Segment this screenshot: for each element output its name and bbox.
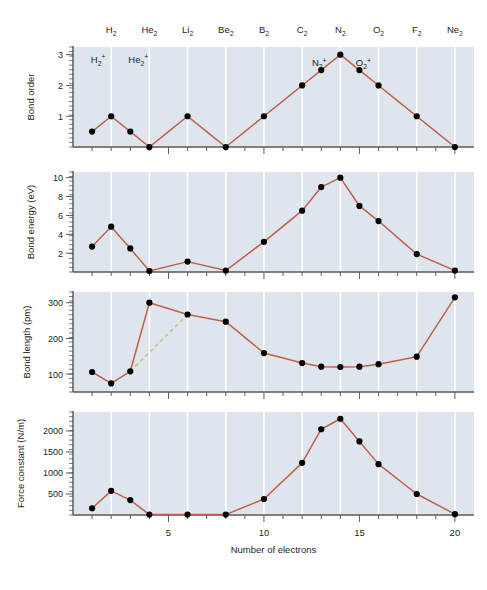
data-point-marker: [108, 113, 114, 119]
data-point-marker: [299, 82, 305, 88]
data-point-marker: [223, 511, 229, 517]
data-point-marker: [414, 354, 420, 360]
data-point-marker: [146, 511, 152, 517]
data-point-marker: [337, 52, 343, 58]
data-point-marker: [261, 113, 267, 119]
data-point-marker: [414, 491, 420, 497]
data-point-marker: [89, 129, 95, 135]
data-point-marker: [452, 144, 458, 150]
data-point-marker: [261, 496, 267, 502]
y-tick-label: 2000: [43, 426, 63, 436]
y-tick-label: 1000: [43, 468, 63, 478]
multi-panel-chart: H2He2Li2Be2B2C2N2O2F2Ne2123Bond order246…: [0, 0, 487, 590]
y-tick-label: 300: [48, 298, 63, 308]
panel-bond-energy: 246810Bond energy (eV): [25, 171, 474, 279]
molecule-label-f2: F2: [412, 24, 422, 37]
molecule-label-ne2: Ne2: [447, 24, 463, 37]
data-point-marker: [452, 511, 458, 517]
x-axis-title: Number of electrons: [231, 544, 317, 555]
x-tick-label: 5: [166, 527, 171, 538]
data-point-marker: [318, 184, 324, 190]
data-point-marker: [375, 361, 381, 367]
data-point-marker: [414, 113, 420, 119]
molecule-label-c2: C2: [297, 24, 308, 37]
data-point-marker: [89, 369, 95, 375]
y-axis-title: Bond order: [25, 73, 36, 120]
molecule-label-n2: N2: [335, 24, 346, 37]
data-point-marker: [146, 300, 152, 306]
y-tick-label: 100: [48, 370, 63, 380]
y-axis-title: Bond energy (eV): [25, 185, 36, 259]
data-point-marker: [318, 364, 324, 370]
y-tick-label: 8: [58, 192, 63, 202]
data-point-marker: [337, 175, 343, 181]
panel-background: [73, 172, 474, 272]
data-point-marker: [452, 294, 458, 300]
data-point-marker: [337, 364, 343, 370]
panel-background: [73, 292, 474, 392]
data-point-marker: [375, 82, 381, 88]
y-tick-label: 2: [58, 81, 63, 91]
x-tick-label: 10: [259, 527, 270, 538]
panel-bond-length: 100200300Bond length (pm): [21, 291, 474, 399]
data-point-marker: [89, 505, 95, 511]
data-point-marker: [89, 243, 95, 249]
data-point-marker: [261, 239, 267, 245]
molecule-label-b2: B2: [259, 24, 269, 37]
data-point-marker: [261, 350, 267, 356]
y-tick-label: 1: [58, 112, 63, 122]
data-point-marker: [299, 360, 305, 366]
x-tick-label: 15: [354, 527, 365, 538]
data-point-marker: [127, 245, 133, 251]
y-tick-label: 2: [58, 249, 63, 259]
molecule-label-be2: Be2: [218, 24, 234, 37]
data-point-marker: [375, 461, 381, 467]
molecule-label-o2: O2: [373, 24, 384, 37]
y-tick-label: 4: [58, 230, 63, 240]
data-point-marker: [127, 368, 133, 374]
data-point-marker: [375, 218, 381, 224]
y-tick-label: 10: [53, 173, 63, 183]
data-point-marker: [184, 259, 190, 265]
data-point-marker: [184, 113, 190, 119]
data-point-marker: [223, 267, 229, 273]
data-point-marker: [337, 416, 343, 422]
data-point-marker: [223, 319, 229, 325]
data-point-marker: [299, 208, 305, 214]
data-point-marker: [356, 438, 362, 444]
molecule-label-li2: Li2: [182, 24, 193, 37]
y-axis-title: Bond length (pm): [21, 306, 32, 379]
data-point-marker: [299, 460, 305, 466]
molecule-label-h2: H2: [106, 24, 117, 37]
y-tick-label: 200: [48, 334, 63, 344]
x-tick-label: 20: [450, 527, 461, 538]
data-point-marker: [127, 129, 133, 135]
y-tick-label: 3: [58, 50, 63, 60]
y-axis-title: Force constant (N/m): [15, 419, 26, 508]
panel-force-constant: 500100015002000Force constant (N/m): [15, 411, 474, 522]
data-point-marker: [146, 268, 152, 274]
data-point-marker: [108, 224, 114, 230]
molecule-label-he2: He2: [141, 24, 157, 37]
y-tick-label: 6: [58, 211, 63, 221]
data-point-marker: [318, 426, 324, 432]
bond-properties-figure: H2He2Li2Be2B2C2N2O2F2Ne2123Bond order246…: [0, 0, 487, 590]
data-point-marker: [146, 144, 152, 150]
data-point-marker: [184, 311, 190, 317]
data-point-marker: [108, 488, 114, 494]
data-point-marker: [356, 364, 362, 370]
data-point-marker: [184, 511, 190, 517]
data-point-marker: [356, 203, 362, 209]
data-point-marker: [414, 251, 420, 257]
data-point-marker: [127, 497, 133, 503]
data-point-marker: [452, 267, 458, 273]
y-tick-label: 500: [48, 489, 63, 499]
data-point-marker: [108, 380, 114, 386]
data-point-marker: [223, 144, 229, 150]
y-tick-label: 1500: [43, 447, 63, 457]
